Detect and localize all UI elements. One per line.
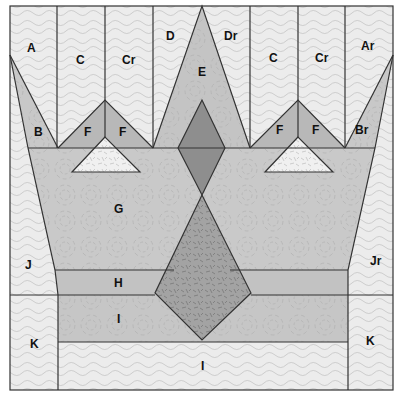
label-j: J xyxy=(25,258,32,272)
label-f-2: F xyxy=(119,125,126,139)
label-d: D xyxy=(166,29,175,43)
crown-block-svg: A C Cr D Dr C Cr Ar E B F F F F Br G J J… xyxy=(0,0,401,398)
label-dr: Dr xyxy=(224,29,238,43)
label-h: H xyxy=(114,276,123,290)
label-e: E xyxy=(198,65,206,79)
label-g: G xyxy=(114,202,123,216)
label-cr-left: Cr xyxy=(122,53,136,67)
label-jr: Jr xyxy=(370,254,382,268)
label-i-lower: I xyxy=(201,359,204,373)
label-i-upper: I xyxy=(117,312,120,326)
label-f-1: F xyxy=(84,125,91,139)
label-b: B xyxy=(34,125,43,139)
quilt-crown-diagram: A C Cr D Dr C Cr Ar E B F F F F Br G J J… xyxy=(0,0,401,398)
label-a: A xyxy=(27,41,36,55)
label-cr-right: Cr xyxy=(315,51,329,65)
label-k-left: K xyxy=(30,337,39,351)
label-ar: Ar xyxy=(361,39,375,53)
label-f-4: F xyxy=(312,123,319,137)
label-br: Br xyxy=(355,123,369,137)
label-c-right: C xyxy=(269,51,278,65)
label-c-left: C xyxy=(76,53,85,67)
label-k-right: K xyxy=(366,334,375,348)
label-f-3: F xyxy=(276,123,283,137)
